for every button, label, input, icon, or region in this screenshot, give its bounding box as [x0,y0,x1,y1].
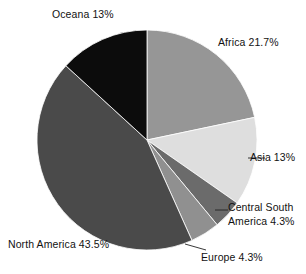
pie-label-europe: Europe 4.3% [201,251,263,264]
pie-label-north-america: North America 43.5% [8,238,109,251]
leader-line-europe [185,244,206,250]
pie-label-central-south-america-line1: Central South [228,201,294,213]
pie-slice-group [37,30,257,250]
pie-label-africa: Africa 21.7% [218,36,279,49]
pie-label-central-south-america-line2: America 4.3% [228,215,295,227]
pie-label-asia: Asia 13% [250,151,295,164]
pie-label-oceana: Oceana 13% [52,8,114,21]
pie-label-central-south-america: Central South America 4.3% [228,201,295,228]
pie-chart: Oceana 13% Africa 21.7% Asia 13% Central… [0,0,306,274]
